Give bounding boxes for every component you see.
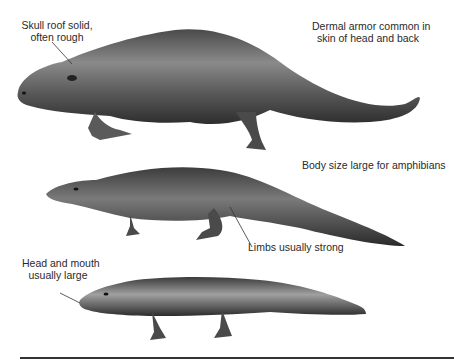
label-dermal-armor: Dermal armor common in skin of head and …: [312, 20, 424, 44]
illustration: [0, 0, 454, 360]
bottom-rule: [20, 357, 454, 359]
label-limbs: Limbs usually strong: [248, 241, 344, 253]
animal-2-long-tailed: [46, 167, 405, 246]
leader-line-head: [60, 293, 80, 303]
label-body-size: Body size large for amphibians: [302, 159, 446, 171]
animal-1-large-armored: [18, 29, 421, 150]
label-line: skin of head and back: [312, 32, 424, 44]
label-head-mouth: Head and mouth usually large: [22, 257, 94, 281]
label-line: often rough: [18, 31, 96, 43]
label-line: Head and mouth: [22, 257, 94, 269]
label-line: Skull roof solid,: [18, 19, 96, 31]
label-line: Dermal armor common in: [312, 20, 424, 32]
label-line: usually large: [22, 269, 94, 281]
animal-3-salamander-like: [79, 277, 366, 340]
leader-line-skull: [52, 42, 72, 64]
label-skull-roof: Skull roof solid, often rough: [18, 19, 96, 43]
